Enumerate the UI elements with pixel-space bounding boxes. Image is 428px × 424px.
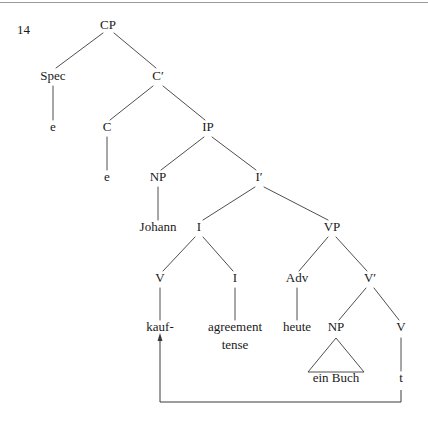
- terminal-t: t: [399, 370, 403, 385]
- terminal-kauf: kauf-: [146, 319, 173, 334]
- node-IP: IP: [202, 119, 214, 134]
- branch-Vbar-to-NP_obj: [339, 288, 366, 320]
- node-VP: VP: [324, 219, 341, 234]
- node-Adv: Adv: [286, 270, 309, 285]
- node-Spec: Spec: [40, 68, 66, 83]
- terminal-ein_buch: ein Buch: [313, 370, 360, 385]
- terminal-heute: heute: [283, 319, 311, 334]
- terminal-Johann: Johann: [140, 219, 177, 234]
- node-NP_obj: NP: [328, 319, 345, 334]
- node-I_max: I: [197, 219, 201, 234]
- node-Cbar: C′: [152, 68, 164, 83]
- branch-IP-to-Ibar: [212, 137, 256, 170]
- np-object-triangle: [308, 338, 364, 372]
- branch-Ibar-to-VP: [264, 187, 328, 220]
- branch-I_max-to-I_infl: [203, 237, 233, 271]
- node-Ibar: I′: [255, 169, 262, 184]
- node-C: C: [103, 119, 112, 134]
- constituent-triangles-layer: [308, 338, 364, 372]
- terminal-e1: e: [50, 119, 56, 134]
- branch-VP-to-Adv: [299, 237, 328, 271]
- example-number: 14: [17, 22, 31, 37]
- node-V_head: V: [155, 270, 165, 285]
- branch-Cbar-to-IP: [163, 86, 205, 120]
- node-V_trace: V: [396, 319, 406, 334]
- syntax-tree-canvas: CPSpecC′eCIPeNPI′JohannIVPVIAdvV′kauf-ag…: [0, 0, 428, 424]
- branch-IP-to-NP_subj: [161, 137, 204, 170]
- v-to-i-movement-arrowhead: [158, 333, 163, 341]
- node-NP_subj: NP: [150, 169, 167, 184]
- v-to-i-movement: [160, 340, 401, 402]
- terminal-agreement: agreement: [208, 319, 263, 334]
- terminal-e2: e: [104, 169, 110, 184]
- branch-CP-to-Spec: [56, 33, 103, 68]
- branch-VP-to-Vbar: [336, 237, 367, 271]
- branch-Vbar-to-V_trace: [374, 288, 399, 320]
- syntax-tree-figure: CPSpecC′eCIPeNPI′JohannIVPVIAdvV′kauf-ag…: [0, 0, 428, 424]
- branch-CP-to-Cbar: [114, 33, 156, 68]
- node-labels-layer: CPSpecC′eCIPeNPI′JohannIVPVIAdvV′kauf-ag…: [40, 17, 406, 385]
- terminal-tense: tense: [222, 337, 249, 352]
- branch-Cbar-to-C: [110, 86, 153, 120]
- movement-arrows-layer: [158, 333, 402, 402]
- branch-I_max-to-V_head: [163, 237, 195, 271]
- node-I_infl: I: [233, 270, 237, 285]
- branch-Ibar-to-I_max: [203, 187, 255, 220]
- node-Vbar: V′: [364, 270, 376, 285]
- node-CP: CP: [100, 17, 116, 32]
